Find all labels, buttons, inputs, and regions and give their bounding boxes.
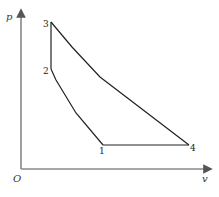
process-3-4	[51, 22, 189, 145]
x-axis-label: v	[202, 173, 208, 184]
figure-caption	[40, 186, 180, 194]
point-label-1: 1	[99, 146, 105, 156]
pv-diagram: p O v 3 2 1 4	[0, 0, 219, 197]
origin-label: O	[13, 173, 21, 184]
point-label-3: 3	[43, 19, 49, 29]
y-axis-label: p	[6, 11, 13, 22]
point-label-2: 2	[43, 66, 49, 76]
process-1-2	[51, 69, 103, 145]
point-label-4: 4	[190, 143, 196, 153]
